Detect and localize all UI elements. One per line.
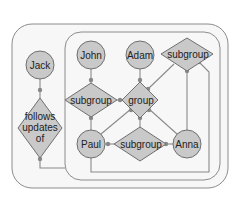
node-subgroup-bottom-label: subgroup bbox=[120, 139, 162, 150]
node-group-label: group bbox=[128, 95, 154, 106]
node-john-label: John bbox=[80, 50, 102, 61]
graph-diagram: Jack follows updates of John Adam subgro… bbox=[0, 0, 240, 203]
node-paul[interactable]: Paul bbox=[77, 130, 105, 158]
node-subgroup-top-label: subgroup bbox=[167, 49, 209, 60]
node-follows-label-line2: updates bbox=[22, 122, 58, 133]
node-anna[interactable]: Anna bbox=[173, 130, 201, 158]
node-paul-label: Paul bbox=[81, 139, 101, 150]
node-john[interactable]: John bbox=[77, 41, 105, 69]
node-adam-label: Adam bbox=[127, 50, 153, 61]
node-anna-label: Anna bbox=[175, 139, 199, 150]
node-adam[interactable]: Adam bbox=[126, 41, 154, 69]
node-follows-label-line3: of bbox=[36, 133, 45, 144]
node-subgroup-left-label: subgroup bbox=[70, 95, 112, 106]
node-jack[interactable]: Jack bbox=[26, 51, 54, 79]
node-jack-label: Jack bbox=[30, 60, 52, 71]
node-follows-label-line1: follows bbox=[25, 111, 56, 122]
